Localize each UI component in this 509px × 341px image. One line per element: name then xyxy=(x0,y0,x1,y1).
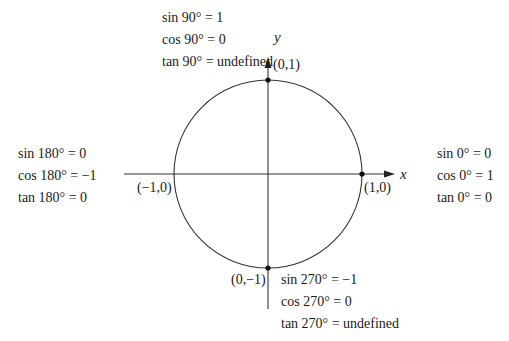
angle-90-values: sin 90° = 1 cos 90° = 0 tan 90° = undefi… xyxy=(162,10,273,76)
cos-270: cos 270° = 0 xyxy=(281,294,399,310)
point-label-top: (0,1) xyxy=(273,57,300,73)
cos-180: cos 180° = −1 xyxy=(18,168,97,184)
x-axis-label: x xyxy=(400,166,407,182)
point-right xyxy=(359,171,364,176)
point-label-left: (−1,0) xyxy=(137,180,172,196)
tan-90: tan 90° = undefined xyxy=(162,54,273,70)
sin-270: sin 270° = −1 xyxy=(281,272,399,288)
cos-0: cos 0° = 1 xyxy=(437,168,494,184)
sin-90: sin 90° = 1 xyxy=(162,10,273,26)
point-label-bottom: (0,−1) xyxy=(231,272,266,288)
angle-270-values: sin 270° = −1 cos 270° = 0 tan 270° = un… xyxy=(281,272,399,338)
point-label-right: (1,0) xyxy=(364,180,391,196)
angle-0-values: sin 0° = 0 cos 0° = 1 tan 0° = 0 xyxy=(437,146,494,212)
cos-90: cos 90° = 0 xyxy=(162,32,273,48)
unit-circle-diagram: y x (0,1) (−1,0) (1,0) (0,−1) sin 90° = … xyxy=(0,0,509,341)
tan-270: tan 270° = undefined xyxy=(281,316,399,332)
point-bottom xyxy=(265,265,270,270)
tan-180: tan 180° = 0 xyxy=(18,190,97,206)
point-top xyxy=(265,77,270,82)
x-axis-arrow-icon xyxy=(384,171,395,178)
sin-180: sin 180° = 0 xyxy=(18,146,97,162)
angle-180-values: sin 180° = 0 cos 180° = −1 tan 180° = 0 xyxy=(18,146,97,212)
y-axis-label: y xyxy=(274,29,281,45)
sin-0: sin 0° = 0 xyxy=(437,146,494,162)
tan-0: tan 0° = 0 xyxy=(437,190,494,206)
